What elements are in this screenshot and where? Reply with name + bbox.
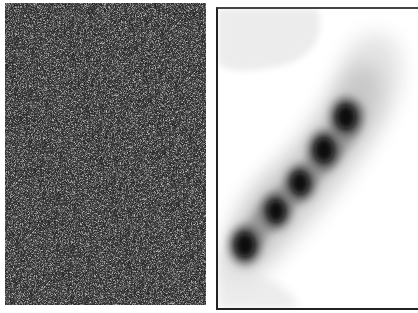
density-blob bbox=[235, 233, 254, 257]
faint-region-top-left bbox=[218, 9, 320, 71]
density-blob bbox=[336, 105, 355, 129]
noise-image-panel bbox=[5, 3, 206, 305]
density-blob bbox=[267, 200, 285, 222]
density-blob bbox=[314, 138, 333, 162]
density-map bbox=[218, 9, 418, 308]
noise-canvas bbox=[5, 3, 206, 305]
density-map-panel bbox=[216, 7, 418, 310]
density-blob bbox=[291, 172, 309, 194]
